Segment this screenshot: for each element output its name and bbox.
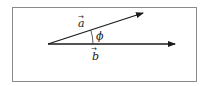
vector-arrow-icon: → (91, 45, 97, 53)
vector-a-label: a → (78, 13, 85, 30)
vector-angle-diagram: a → ϕ b → (0, 0, 204, 86)
angle-phi-label: ϕ (96, 30, 104, 43)
vector-arrow-icon: → (78, 13, 84, 21)
